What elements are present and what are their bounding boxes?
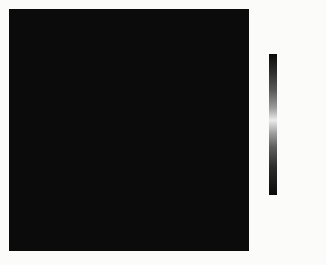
colorbar (269, 54, 277, 195)
heatmap-grid (9, 9, 249, 251)
